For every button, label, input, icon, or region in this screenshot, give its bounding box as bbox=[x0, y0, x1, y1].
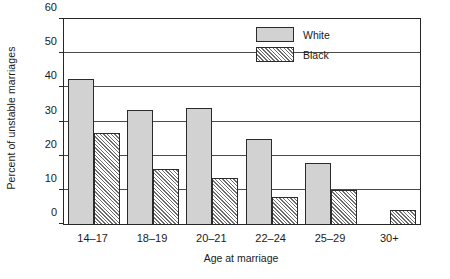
x-axis-tick-label: 18–19 bbox=[122, 224, 181, 254]
solid-gray-swatch bbox=[256, 27, 294, 42]
chart-legend: WhiteBlack bbox=[256, 27, 372, 62]
bar-group bbox=[64, 19, 123, 224]
bar-black[interactable] bbox=[272, 197, 298, 224]
x-axis-tick-label: 14–17 bbox=[63, 224, 122, 254]
bar-white[interactable] bbox=[305, 163, 331, 225]
x-axis-title: Age at marriage bbox=[63, 252, 419, 264]
bar-white[interactable] bbox=[68, 79, 94, 224]
x-axis-tick-label: 30+ bbox=[360, 224, 419, 254]
bar-group bbox=[183, 19, 242, 224]
legend-entry[interactable]: White bbox=[256, 27, 372, 42]
bar-white[interactable] bbox=[186, 108, 212, 224]
y-axis-tick-label: 30 bbox=[45, 104, 64, 116]
y-axis-title: Percent of unstable marriages bbox=[0, 0, 22, 235]
bar-chart-figure: Percent of unstable marriages 0102030405… bbox=[0, 0, 450, 279]
y-axis-title-text: Percent of unstable marriages bbox=[5, 46, 17, 189]
x-axis-tick-label: 22–24 bbox=[241, 224, 300, 254]
y-axis-tick-label: 10 bbox=[45, 172, 64, 184]
x-axis-tick-label: 20–21 bbox=[182, 224, 241, 254]
bar-black[interactable] bbox=[153, 169, 179, 224]
bar-black[interactable] bbox=[94, 133, 120, 224]
y-axis-tick-label: 20 bbox=[45, 138, 64, 150]
bar-black[interactable] bbox=[212, 178, 238, 224]
bar-white[interactable] bbox=[127, 110, 153, 224]
legend-entry[interactable]: Black bbox=[256, 47, 372, 62]
bar-black[interactable] bbox=[390, 210, 416, 224]
diagonal-hatch-swatch bbox=[256, 47, 294, 62]
x-axis-tick-labels: 14–1718–1920–2122–2425–2930+ bbox=[63, 224, 419, 254]
x-axis-tick-label: 25–29 bbox=[300, 224, 359, 254]
y-axis-tick-label: 0 bbox=[51, 206, 64, 218]
bar-group bbox=[123, 19, 182, 224]
y-axis-tick-label: 50 bbox=[45, 35, 64, 47]
y-axis-tick-label: 40 bbox=[45, 69, 64, 81]
legend-entry-label: White bbox=[303, 29, 330, 41]
bar-white[interactable] bbox=[246, 139, 272, 224]
y-axis-tick-label: 60 bbox=[45, 1, 64, 13]
legend-entry-label: Black bbox=[303, 49, 329, 61]
bar-black[interactable] bbox=[331, 190, 357, 224]
